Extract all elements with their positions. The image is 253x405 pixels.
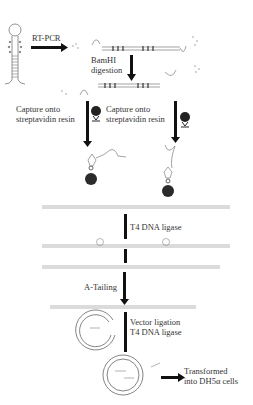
bead-captured-left-icon <box>85 150 126 185</box>
capture-left-label-2: streptavidin resin <box>16 114 75 124</box>
workflow-diagram <box>0 0 253 405</box>
recombinant-plasmid-icon <box>103 355 160 395</box>
vector-ligation-label-1: Vector ligation <box>130 317 180 327</box>
a-tailing-label: A-Tailing <box>84 282 117 292</box>
transformed-label-1: Transformed <box>184 366 228 376</box>
capture-right-label-1: Capture onto <box>106 104 150 114</box>
t4-ligase-label: T4 DNA ligase <box>130 222 181 232</box>
rt-pcr-arrow-icon <box>31 43 68 52</box>
capture-left-label-1: Capture onto <box>16 104 60 114</box>
hairpin-rna-icon <box>5 24 25 84</box>
open-vector-plasmid-icon <box>76 310 115 350</box>
bead-captured-right-icon <box>162 145 175 197</box>
rt-pcr-label: RT-PCR <box>32 33 60 43</box>
ligase-arrow-icon <box>124 214 127 239</box>
vector-ligation-label-2: T4 DNA ligase <box>130 327 181 337</box>
transform-arrow-icon <box>161 373 185 382</box>
a-tailing-arrow-icon <box>123 272 126 300</box>
capture-left-arrow-icon <box>86 101 89 142</box>
dsdna-pcr-product-icon <box>92 40 186 52</box>
transformed-label-2: into DH5α cells <box>184 376 238 386</box>
bamhi-label-1: BamHI <box>91 55 116 65</box>
capture-right-label-2: streptavidin resin <box>106 114 165 124</box>
bamhi-arrow-icon <box>130 55 133 75</box>
capture-right-arrow-icon <box>174 101 177 138</box>
bamhi-label-2: digestion <box>91 65 122 75</box>
vector-ligation-arrow-icon <box>124 312 127 352</box>
